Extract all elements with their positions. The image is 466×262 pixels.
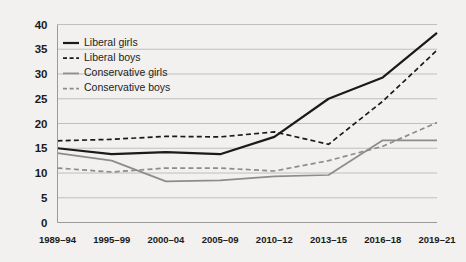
y-tick-label: 30 — [35, 68, 48, 80]
legend-label-liberal-boys: Liberal boys — [84, 51, 141, 63]
series-line-conservative-boys — [58, 123, 438, 172]
legend-label-liberal-girls: Liberal girls — [84, 36, 138, 48]
series-line-liberal-boys — [58, 50, 438, 144]
y-tick-label: 0 — [41, 217, 47, 229]
y-tick-label: 20 — [35, 118, 48, 130]
x-tick-label: 1995–99 — [93, 234, 130, 245]
y-tick-label: 15 — [35, 142, 48, 154]
line-chart: 0510152025303540 1989–941995–992000–0420… — [0, 0, 466, 262]
x-tick-label: 2000–04 — [147, 234, 185, 245]
y-axis-tick-labels: 0510152025303540 — [35, 19, 48, 229]
x-tick-label: 2013–15 — [310, 234, 348, 245]
legend-label-conservative-girls: Conservative girls — [84, 66, 167, 78]
y-tick-label: 10 — [35, 167, 48, 179]
x-tick-label: 2019–21 — [419, 234, 457, 245]
x-tick-label: 2010–12 — [256, 234, 293, 245]
chart-legend: Liberal girlsLiberal boysConservative gi… — [63, 36, 170, 94]
y-tick-label: 5 — [41, 192, 48, 204]
x-tick-label: 2016–18 — [364, 234, 401, 245]
x-axis-tick-labels: 1989–941995–992000–042005–092010–122013–… — [39, 234, 456, 245]
chart-canvas: 0510152025303540 1989–941995–992000–0420… — [0, 0, 466, 262]
x-tick-label: 2005–09 — [202, 234, 239, 245]
y-tick-label: 35 — [35, 43, 48, 55]
y-tick-label: 40 — [35, 19, 48, 31]
legend-label-conservative-boys: Conservative boys — [84, 81, 170, 93]
x-tick-label: 1989–94 — [39, 234, 77, 245]
y-tick-label: 25 — [35, 93, 48, 105]
